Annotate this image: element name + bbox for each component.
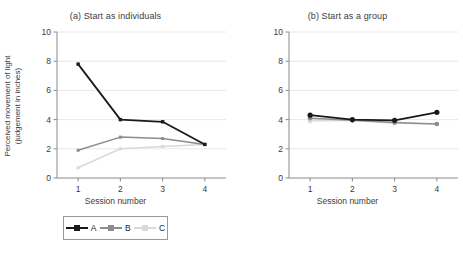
svg-text:4: 4 <box>278 115 283 125</box>
svg-text:6: 6 <box>278 85 283 95</box>
panel-a-legend: ABC <box>63 216 168 240</box>
panel-a-x-axis-label: Session number <box>0 196 231 206</box>
svg-text:2: 2 <box>46 144 51 154</box>
svg-text:10: 10 <box>274 27 284 37</box>
figure-two-panel-line-chart: (a) Start as individuals Perceived movem… <box>0 0 463 256</box>
svg-text:4: 4 <box>203 184 208 194</box>
legend-marker-icon-b <box>100 223 122 233</box>
svg-text:2: 2 <box>278 144 283 154</box>
svg-text:0: 0 <box>278 173 283 183</box>
svg-text:1: 1 <box>76 184 81 194</box>
legend-entry-c: C <box>134 223 165 233</box>
legend-marker-icon-a <box>66 223 88 233</box>
svg-text:2: 2 <box>118 184 123 194</box>
svg-text:3: 3 <box>160 184 165 194</box>
svg-text:4: 4 <box>435 184 440 194</box>
legend-entry-b: B <box>100 223 131 233</box>
legend-label-c: C <box>159 223 165 233</box>
panel-a-plot-area: 02468101234 <box>0 0 231 200</box>
svg-text:8: 8 <box>46 56 51 66</box>
svg-text:3: 3 <box>392 184 397 194</box>
panel-b-plot-area: 02468101234 <box>232 0 463 200</box>
svg-text:0: 0 <box>46 173 51 183</box>
legend-marker-icon-c <box>134 223 156 233</box>
svg-text:4: 4 <box>46 115 51 125</box>
panel-start-as-individuals: (a) Start as individuals Perceived movem… <box>0 0 231 256</box>
svg-text:1: 1 <box>308 184 313 194</box>
legend-label-b: B <box>125 223 131 233</box>
panel-b-x-axis-label: Session number <box>232 196 463 206</box>
svg-text:10: 10 <box>42 27 52 37</box>
svg-text:2: 2 <box>350 184 355 194</box>
panel-start-as-a-group: (b) Start as a group 02468101234 Session… <box>232 0 463 256</box>
svg-text:6: 6 <box>46 85 51 95</box>
legend-entry-a: A <box>66 223 97 233</box>
legend-label-a: A <box>91 223 97 233</box>
svg-text:8: 8 <box>278 56 283 66</box>
